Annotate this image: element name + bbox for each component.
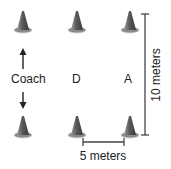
coach-label: Coach [11,72,46,86]
cone-bottom-2 [68,116,86,138]
cone-top-1 [14,11,32,33]
width-dimension-bar [83,138,124,146]
attacker-label: A [124,72,132,86]
height-dimension-bar [141,14,149,135]
arrow-up-icon [20,48,27,69]
cone-top-2 [68,11,86,33]
width-dimension-label: 5 meters [80,149,127,163]
arrow-down-icon [20,92,27,109]
height-dimension-label: 10 meters [149,48,163,101]
drill-diagram: Coach D A 10 meters 5 meters [0,0,171,169]
cone-bottom-3 [121,116,139,138]
defender-label: D [72,72,81,86]
cone-top-3 [121,11,139,33]
cone-bottom-1 [14,116,32,138]
